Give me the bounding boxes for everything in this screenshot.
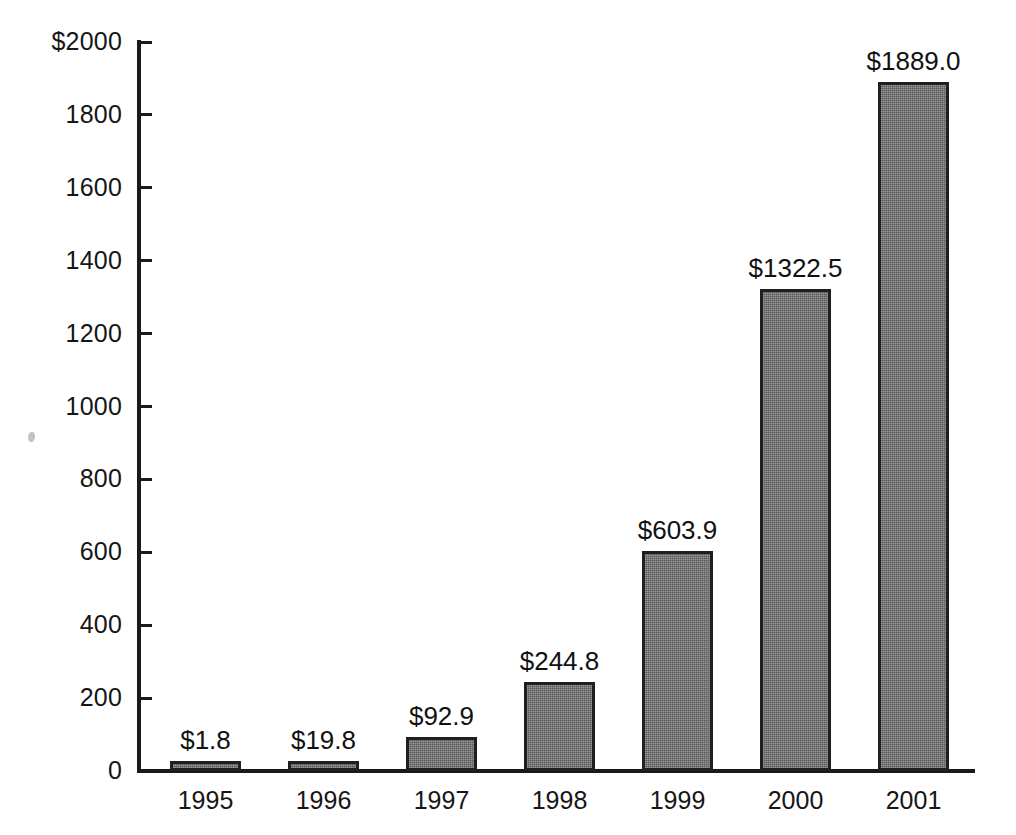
bar-value-label: $603.9 — [598, 517, 758, 543]
bar[interactable] — [760, 289, 831, 771]
bar-value-label: $19.8 — [244, 727, 404, 753]
bar-value-label: $1322.5 — [716, 255, 876, 281]
bar[interactable] — [406, 737, 477, 771]
bar-value-label: $1889.0 — [834, 48, 994, 74]
plot-area: $1.81995$19.81996$92.91997$244.81998$603… — [0, 0, 1016, 835]
bar[interactable] — [288, 761, 359, 771]
x-axis-tick-label: 2001 — [834, 787, 994, 813]
bar[interactable] — [642, 551, 713, 771]
bar-chart: 020040060080010001200140016001800$2000 $… — [0, 0, 1016, 835]
bar[interactable] — [878, 82, 949, 771]
bar-value-label: $92.9 — [362, 703, 522, 729]
bar[interactable] — [524, 682, 595, 771]
bar-value-label: $244.8 — [480, 648, 640, 674]
bar[interactable] — [170, 761, 241, 771]
